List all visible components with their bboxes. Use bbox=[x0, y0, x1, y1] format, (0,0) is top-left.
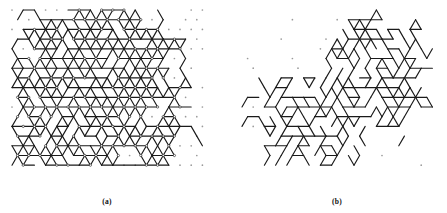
bond-network bbox=[12, 10, 202, 165]
figure-root: (a) (b) bbox=[0, 0, 447, 213]
bond-network bbox=[242, 10, 432, 165]
panel-a bbox=[8, 4, 204, 188]
panel-a-lattice bbox=[8, 4, 204, 188]
panel-b bbox=[238, 4, 434, 188]
panel-a-caption: (a) bbox=[87, 197, 127, 206]
panel-b-caption: (b) bbox=[317, 197, 357, 206]
panel-b-lattice bbox=[238, 4, 434, 188]
